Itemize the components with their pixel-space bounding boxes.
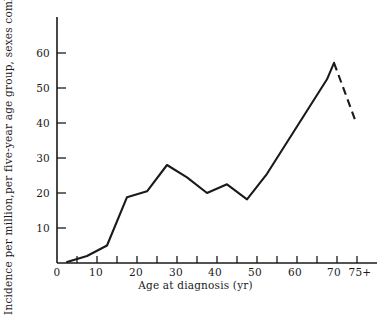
incidence-line-solid bbox=[67, 63, 334, 262]
x-axis-ticks bbox=[77, 256, 357, 263]
y-axis-ticks bbox=[57, 53, 66, 228]
incidence-line-dashed bbox=[334, 63, 356, 123]
